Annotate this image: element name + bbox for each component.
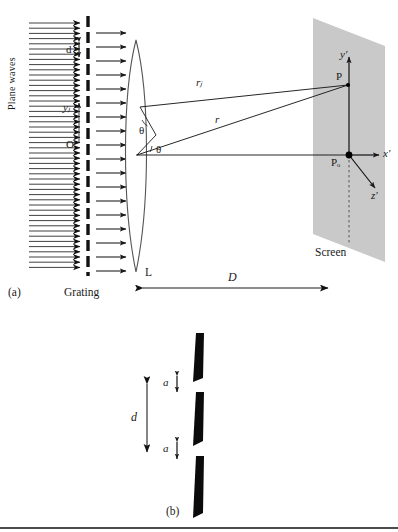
ray-r-label: r [215, 113, 219, 125]
D-distance-label: D [228, 270, 237, 285]
point-P-label: P [336, 70, 342, 82]
panel-b-caption: (b) [166, 505, 179, 517]
point-P0-label: Pₒ [331, 156, 340, 168]
lens-L-label: L [145, 266, 152, 278]
figure-root: Plane waves d yⱼ O Grating (a) L rⱼ r θ … [0, 0, 398, 532]
theta-upper-label: θ [139, 124, 144, 136]
period-d-label: d [131, 410, 137, 425]
axis-z-label: z′ [371, 189, 378, 201]
origin-O-label: O [66, 138, 74, 150]
theta-lower-label: θ [156, 143, 161, 155]
yj-label: yⱼ [63, 101, 70, 114]
grating-slits-detail [193, 333, 204, 518]
slit-a-bottom-label: a [163, 442, 169, 454]
d-spacing-label: d [66, 43, 72, 55]
lens-L [126, 40, 147, 272]
axis-y-label: y′ [340, 48, 347, 60]
grating-label: Grating [64, 286, 99, 298]
output-wave-arrows [96, 33, 126, 271]
screen-label: Screen [315, 246, 346, 258]
axis-x-label: x′ [383, 147, 390, 159]
plane-waves-label: Plane waves [6, 57, 17, 110]
ray-rj-label: rⱼ [196, 76, 202, 89]
panel-a-caption: (a) [8, 286, 21, 298]
slit-a-top-label: a [163, 376, 169, 388]
